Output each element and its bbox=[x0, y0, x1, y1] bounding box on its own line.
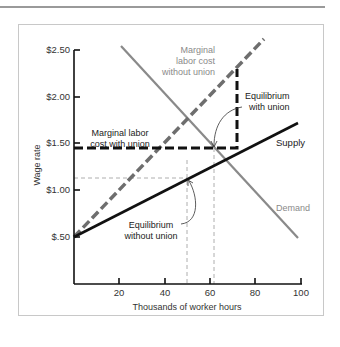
x-tick-label: 100 bbox=[293, 287, 309, 298]
y-tick-label: $1.50 bbox=[46, 137, 70, 148]
label-line: without union bbox=[161, 67, 215, 77]
eq-with-union-label: Equilibrium with union bbox=[245, 91, 290, 112]
label-line: Equilibrium bbox=[245, 91, 290, 101]
x-tick-labels: 20 40 60 80 100 bbox=[114, 287, 309, 298]
label-line: without union bbox=[123, 231, 177, 241]
chart: $2.50 $2.00 $1.50 $1.00 $.50 20 40 60 80… bbox=[0, 0, 340, 347]
y-tick-label: $1.00 bbox=[46, 184, 70, 195]
demand-label: Demand bbox=[276, 203, 310, 213]
y-tick-label: $2.00 bbox=[46, 91, 70, 102]
y-tick-label: $2.50 bbox=[46, 44, 70, 55]
x-tick-label: 40 bbox=[160, 287, 171, 298]
label-line: Equilibrium bbox=[129, 220, 174, 230]
x-tick-label: 80 bbox=[250, 287, 261, 298]
mlc-without-union-label: Marginal labor cost without union bbox=[161, 45, 216, 77]
eq-without-union-arrow bbox=[181, 181, 196, 224]
y-axis-title: Wage rate bbox=[32, 144, 42, 185]
supply-label: Supply bbox=[276, 137, 305, 148]
eq-without-union-label: Equilibrium without union bbox=[123, 220, 177, 241]
label-line: Marginal bbox=[180, 45, 215, 55]
axes bbox=[74, 50, 302, 284]
label-line: labor cost bbox=[176, 56, 216, 66]
y-tick-labels: $2.50 $2.00 $1.50 $1.00 $.50 bbox=[46, 44, 70, 242]
label-line: cost with union bbox=[90, 139, 150, 149]
mlc-with-union-label: Marginal labor cost with union bbox=[90, 128, 150, 149]
x-tick-label: 60 bbox=[205, 287, 216, 298]
y-tick-label: $.50 bbox=[52, 231, 71, 242]
label-line: with union bbox=[248, 102, 290, 112]
x-tick-label: 20 bbox=[114, 287, 125, 298]
x-axis-title: Thousands of worker hours bbox=[132, 302, 242, 312]
label-line: Marginal labor bbox=[91, 128, 148, 138]
